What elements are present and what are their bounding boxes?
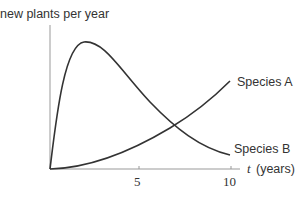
x-axis-unit: (years) xyxy=(256,162,295,176)
series-label-species-a: Species A xyxy=(237,75,293,89)
x-tick-label-10: 10 xyxy=(223,174,236,189)
x-tick-label-5: 5 xyxy=(134,174,141,189)
x-axis-variable: t xyxy=(247,161,251,176)
series-label-species-b: Species B xyxy=(234,142,290,156)
chart-canvas: new plants per year Species A Species B … xyxy=(0,0,299,199)
y-axis-label: new plants per year xyxy=(0,7,109,21)
series-species-a-line xyxy=(50,81,230,169)
